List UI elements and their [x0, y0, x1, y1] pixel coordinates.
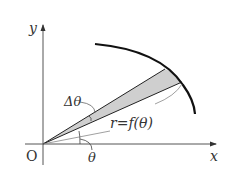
ray-lower — [43, 82, 182, 144]
theta-label: θ — [88, 150, 96, 165]
delta-theta-leader — [80, 102, 95, 113]
origin-label: O — [26, 148, 37, 164]
y-axis-label: y — [28, 20, 38, 36]
ray-upper — [43, 69, 165, 144]
theta-arc — [79, 131, 80, 144]
x-axis-label: x — [210, 148, 218, 164]
polar-area-diagram: y x O Δθ r=f(θ) θ — [0, 0, 233, 191]
curve-label: r=f(θ) — [110, 115, 153, 131]
delta-theta-label: Δθ — [63, 94, 81, 109]
